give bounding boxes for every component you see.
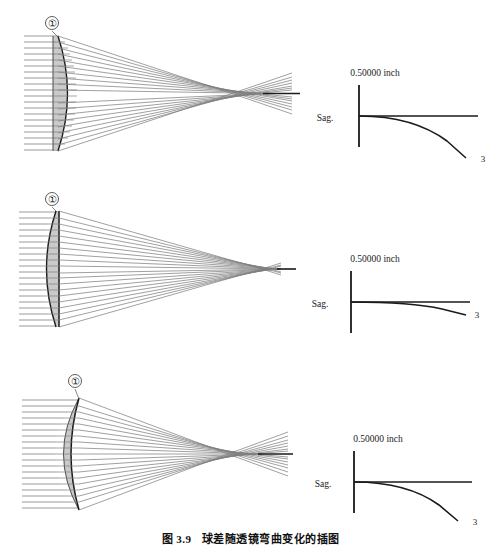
panel-3-drawing: ① 0.50000 inch Sag. 3	[0, 358, 501, 526]
refracted-rays-2	[59, 211, 281, 327]
panel-plano-convex: ① 0.50000 inch Sag. 3	[0, 0, 501, 180]
panel-1-drawing: ① 0.50000 inch Sag. 3	[0, 0, 501, 180]
lens-marker-label-2: ①	[48, 195, 57, 205]
lens-callout-2: ①	[46, 193, 59, 213]
figure-caption-number: 图 3.9	[162, 533, 192, 545]
panel-convex-plano: ① 0.50000 inch Sag. 3	[0, 180, 501, 358]
panel-meniscus: ① 0.50000 inch Sag. 3	[0, 358, 501, 526]
sag-scale-label-3: 0.50000 inch	[353, 434, 403, 444]
lens-marker-label-1: ①	[48, 19, 57, 29]
panel-2-drawing: ① 0.50000 inch Sag. 3	[0, 180, 501, 358]
figure-caption-text: 球差随透镜弯曲变化的插图	[202, 533, 340, 545]
sag-plot-1: 0.50000 inch Sag. 3	[317, 68, 486, 164]
sag-series-label-1: 3	[481, 154, 486, 164]
optical-figure: ① 0.50000 inch Sag. 3	[0, 0, 501, 556]
sag-series-label-2: 3	[475, 310, 480, 320]
sag-series-label-3: 3	[473, 517, 478, 526]
sag-curve-3	[354, 482, 458, 521]
sag-scale-label-2: 0.50000 inch	[350, 254, 400, 264]
sag-curve-2	[351, 302, 466, 315]
lens-element-1	[53, 36, 68, 151]
lens-callout-1: ①	[46, 17, 59, 38]
figure-caption: 图 3.9球差随透镜弯曲变化的插图	[0, 530, 501, 546]
sag-plot-3: 0.50000 inch Sag. 3	[315, 434, 478, 526]
lens-callout-3: ①	[69, 375, 82, 400]
sag-axis-title-1: Sag.	[317, 113, 334, 123]
sag-axis-title-2: Sag.	[312, 299, 329, 309]
sag-plot-2: 0.50000 inch Sag. 3	[312, 254, 480, 333]
sag-axis-title-3: Sag.	[315, 479, 332, 489]
sag-scale-label-1: 0.50000 inch	[350, 68, 400, 78]
sag-curve-1	[359, 116, 466, 158]
lens-element-2	[47, 211, 60, 327]
refracted-rays-1	[58, 36, 266, 151]
lens-marker-label-3: ①	[71, 377, 80, 387]
internal-rays-3	[55, 406, 79, 502]
